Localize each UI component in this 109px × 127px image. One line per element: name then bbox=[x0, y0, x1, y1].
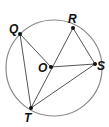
label-O: O bbox=[38, 61, 48, 75]
point-O bbox=[49, 65, 53, 69]
point-R bbox=[71, 26, 75, 30]
circle-diagram: Q R O S T bbox=[0, 0, 109, 127]
segment-OS bbox=[51, 64, 95, 67]
label-R: R bbox=[68, 12, 77, 26]
segments bbox=[20, 28, 95, 108]
point-Q bbox=[18, 32, 22, 36]
label-S: S bbox=[97, 59, 105, 73]
segment-QT bbox=[20, 34, 31, 108]
label-Q: Q bbox=[9, 22, 19, 36]
label-T: T bbox=[24, 111, 33, 125]
point-T bbox=[29, 106, 33, 110]
segment-RS bbox=[73, 28, 95, 64]
